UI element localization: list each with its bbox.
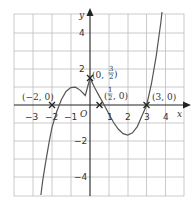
tick-y-neg2: −2 (74, 136, 87, 146)
tick-y-4: 4 (79, 28, 85, 38)
tick-y-neg4: −4 (74, 172, 88, 182)
label-0-3-2: (0, (92, 70, 104, 80)
y-axis-label: y (78, 10, 85, 20)
label-0-3-2-den: 2 (109, 73, 113, 81)
tick-y-2: 2 (79, 64, 85, 74)
label-half-0: ( (104, 91, 108, 101)
tick-x-2: 2 (125, 112, 131, 122)
label-0-3-2-close: ) (114, 69, 118, 79)
tick-x-1: 1 (107, 112, 113, 122)
label-0-3-2-num: 3 (109, 65, 113, 73)
x-axis-arrow-icon (183, 102, 191, 109)
tick-x-neg2: −2 (45, 112, 58, 122)
tick-x-4: 4 (163, 112, 169, 122)
origin-label: O (80, 109, 88, 119)
label-half-den: 2 (108, 94, 112, 102)
tick-x-neg3: −3 (25, 112, 38, 122)
tick-x-3: 3 (144, 112, 150, 122)
y-axis-arrow-icon (87, 8, 94, 16)
tick-x-neg1: −1 (64, 112, 77, 122)
label-half-num: 1 (108, 86, 112, 94)
label-neg2-0: (−2, 0) (22, 92, 54, 102)
cubic-graph: (−2, 0) (0, 3 2 ) ( 1 2 , 0) (3, 0) −3 −… (0, 0, 195, 207)
label-half-close: , 0) (113, 91, 128, 101)
x-axis-label: x (177, 109, 182, 119)
label-3-0: (3, 0) (152, 92, 176, 102)
